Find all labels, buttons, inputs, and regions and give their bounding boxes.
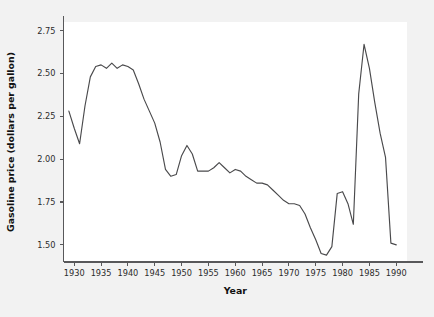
y-tick-label: 2.50 [37,68,55,78]
x-tick-label: 1980 [332,268,353,278]
y-tick-label: 2.00 [37,154,55,164]
x-tick-label: 1935 [91,268,112,278]
x-tick-label: 1990 [386,268,407,278]
y-tick-label: 2.75 [37,26,55,36]
x-axis-title: Year [223,285,248,296]
x-tick-label: 1970 [279,268,300,278]
x-tick-label: 1975 [305,268,326,278]
gasoline-price-line-chart: 1.501.752.002.252.502.75 193019351940194… [0,0,434,317]
x-tick-label: 1950 [171,268,192,278]
y-tick-label: 2.25 [37,111,55,121]
y-axis-title: Gasoline price (dollars per gallon) [5,52,16,232]
x-tick-label: 1960 [225,268,246,278]
x-tick-label: 1940 [117,268,138,278]
y-tick-label: 1.75 [37,197,55,207]
chart-figure: 1.501.752.002.252.502.75 193019351940194… [0,0,434,317]
x-tick-label: 1930 [64,268,85,278]
x-tick-label: 1945 [144,268,165,278]
x-tick-label: 1965 [252,268,273,278]
x-tick-label: 1985 [359,268,380,278]
y-tick-label: 1.50 [37,240,55,250]
plot-area-background [64,22,408,262]
x-tick-label: 1955 [198,268,219,278]
